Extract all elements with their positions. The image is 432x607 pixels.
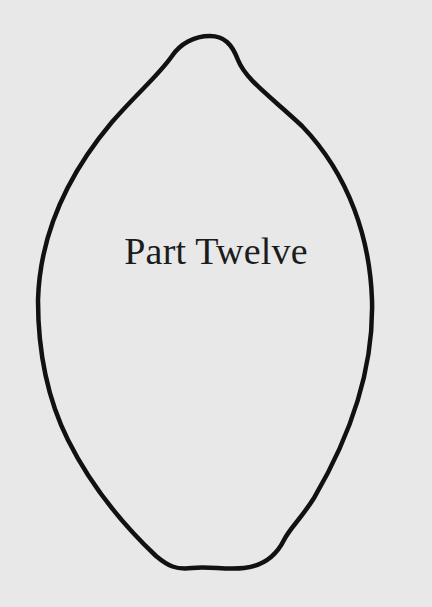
book-page: Part Twelve xyxy=(0,0,432,607)
lemon-outline-icon xyxy=(0,0,432,607)
page-title: Part Twelve xyxy=(0,232,432,270)
